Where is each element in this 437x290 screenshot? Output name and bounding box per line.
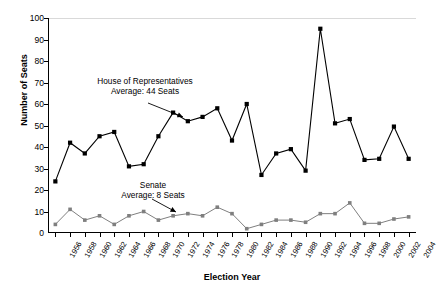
x-tick-label: 1998 (377, 240, 393, 259)
x-tick-label: 2000 (392, 240, 408, 259)
annotation-senate-line2: Average: 8 Seats (98, 190, 208, 200)
y-tick-mark (44, 61, 48, 62)
x-tick-label: 1968 (156, 240, 172, 259)
x-tick-label: 2002 (406, 240, 422, 259)
x-tick-label: 1986 (289, 240, 305, 259)
x-tick-label: 1990 (318, 240, 334, 259)
y-tick-mark (44, 190, 48, 191)
x-tick-mark (306, 233, 307, 237)
x-tick-label: 1982 (259, 240, 275, 259)
x-tick-label: 1978 (230, 240, 246, 259)
x-tick-label: 2004 (421, 240, 437, 259)
x-tick-label: 1994 (347, 240, 363, 259)
x-tick-mark (350, 233, 351, 237)
x-tick-mark (70, 233, 71, 237)
x-tick-label: 1972 (186, 240, 202, 259)
x-tick-mark (100, 233, 101, 237)
y-tick-label: 50 (35, 121, 44, 131)
x-tick-mark (129, 233, 130, 237)
y-tick-label: 40 (35, 142, 44, 152)
x-tick-label: 1996 (362, 240, 378, 259)
x-tick-mark (379, 233, 380, 237)
x-axis-title: Election Year (48, 272, 416, 282)
x-tick-label: 1984 (274, 240, 290, 259)
x-tick-label: 1988 (303, 240, 319, 259)
x-tick-mark (232, 233, 233, 237)
x-tick-mark (335, 233, 336, 237)
plot-area (48, 18, 416, 233)
annotation-house: House of Representatives Average: 44 Sea… (80, 76, 210, 97)
y-tick-mark (44, 126, 48, 127)
y-tick-mark (44, 212, 48, 213)
annotation-house-line1: House of Representatives (80, 76, 210, 86)
x-tick-mark (85, 233, 86, 237)
y-tick-mark (44, 104, 48, 105)
y-tick-label: 10 (35, 207, 44, 217)
x-tick-label: 1958 (83, 240, 99, 259)
x-tick-mark (291, 233, 292, 237)
y-tick-label: 30 (35, 164, 44, 174)
x-tick-mark (409, 233, 410, 237)
annotation-senate-line1: Senate (98, 180, 208, 190)
x-tick-mark (320, 233, 321, 237)
x-tick-mark (217, 233, 218, 237)
x-tick-label: 1970 (171, 240, 187, 259)
y-tick-mark (44, 40, 48, 41)
y-tick-mark (44, 18, 48, 19)
annotation-house-line2: Average: 44 Seats (80, 86, 210, 96)
x-tick-label: 1980 (244, 240, 260, 259)
y-axis-title: Number of Seats (19, 10, 29, 170)
y-tick-mark (44, 83, 48, 84)
y-tick-label: 20 (35, 185, 44, 195)
x-tick-mark (364, 233, 365, 237)
x-tick-mark (247, 233, 248, 237)
y-tick-label: 70 (35, 78, 44, 88)
x-tick-mark (158, 233, 159, 237)
annotation-senate: Senate Average: 8 Seats (98, 180, 208, 201)
x-tick-label: 1966 (141, 240, 157, 259)
y-tick-mark (44, 147, 48, 148)
x-tick-mark (261, 233, 262, 237)
y-tick-label: 60 (35, 99, 44, 109)
x-tick-mark (203, 233, 204, 237)
y-tick-label: 100 (30, 13, 44, 23)
x-tick-label: 1960 (97, 240, 113, 259)
x-tick-label: 1962 (112, 240, 128, 259)
x-tick-label: 1976 (215, 240, 231, 259)
x-tick-label: 1964 (127, 240, 143, 259)
y-tick-label: 90 (35, 35, 44, 45)
x-tick-mark (276, 233, 277, 237)
x-tick-mark (173, 233, 174, 237)
x-tick-mark (114, 233, 115, 237)
x-tick-label: 1992 (333, 240, 349, 259)
x-tick-label: 1974 (200, 240, 216, 259)
y-tick-label: 80 (35, 56, 44, 66)
y-tick-label: 0 (39, 228, 44, 238)
x-tick-mark (144, 233, 145, 237)
y-tick-mark (44, 169, 48, 170)
x-tick-label: 1956 (68, 240, 84, 259)
x-tick-mark (55, 233, 56, 237)
x-tick-mark (188, 233, 189, 237)
x-tick-mark (394, 233, 395, 237)
